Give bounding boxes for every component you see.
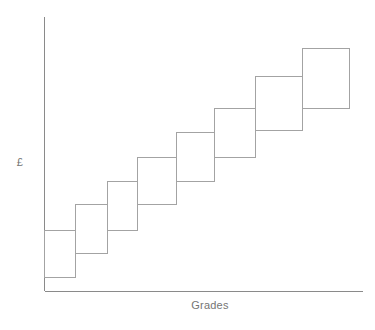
grade-range-box-3 [107, 181, 138, 230]
y-axis-label: £ [12, 156, 28, 168]
grade-range-box-4 [138, 157, 177, 204]
grade-range-box-8 [302, 48, 350, 108]
grade-range-box-2 [75, 204, 107, 253]
pay-grade-structure-chart: £ Grades [0, 0, 375, 330]
grade-range-box-5 [177, 132, 215, 181]
grade-range-box-6 [215, 108, 256, 157]
grade-range-box-7 [255, 76, 302, 130]
grade-range-box-1 [45, 230, 76, 277]
x-axis-label: Grades [175, 299, 245, 311]
chart-canvas [0, 0, 375, 330]
